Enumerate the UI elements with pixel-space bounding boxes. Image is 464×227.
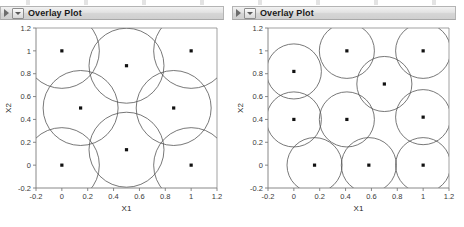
y-tick-label: 1 [27, 47, 31, 56]
x-tick-label: 0.2 [82, 192, 92, 201]
plot-canvas: -0.200.20.40.60.811.2-0.200.20.40.60.811… [232, 20, 456, 225]
y-tick-label: 0.6 [253, 92, 263, 101]
top-scan-artifact [0, 0, 464, 5]
x-tick-label: 0.4 [340, 192, 350, 201]
overlay-plot-panel-left: Overlay Plot -0.200.20.40.60.811.2-0.200… [0, 6, 224, 225]
x-tick-label: 0.6 [366, 192, 376, 201]
triangle-right-icon[interactable] [236, 9, 241, 17]
y-axis-label: X2 [4, 103, 13, 113]
x-tick-label: 0.6 [134, 192, 144, 201]
x-axis-label: X1 [354, 204, 364, 213]
y-tick-label: 0.4 [21, 115, 31, 124]
plot-svg: -0.200.20.40.60.811.2-0.200.20.40.60.811… [0, 20, 224, 225]
panel-titlebar[interactable]: Overlay Plot [232, 6, 456, 20]
x-tick-label: 1.2 [444, 192, 454, 201]
x-tick-label: 1 [421, 192, 425, 201]
y-tick-label: 0.6 [21, 92, 31, 101]
plot-canvas: -0.200.20.40.60.811.2-0.200.20.40.60.811… [0, 20, 224, 225]
x-tick-label: -0.2 [30, 192, 43, 201]
overlay-plot-panel-right: Overlay Plot -0.200.20.40.60.811.2-0.200… [232, 6, 456, 225]
dropdown-menu-icon[interactable] [244, 8, 256, 19]
x-tick-label: 0.2 [314, 192, 324, 201]
triangle-right-icon[interactable] [4, 9, 9, 17]
x-tick-label: 0.4 [108, 192, 118, 201]
y-tick-label: 0.2 [21, 138, 31, 147]
x-axis-label: X1 [122, 204, 132, 213]
x-tick-label: 0.8 [392, 192, 402, 201]
panel-titlebar[interactable]: Overlay Plot [0, 6, 224, 20]
x-tick-label: 0 [292, 192, 296, 201]
dropdown-menu-icon[interactable] [12, 8, 24, 19]
y-tick-label: 1 [259, 47, 263, 56]
x-tick-label: 0.8 [160, 192, 170, 201]
y-tick-label: 0.4 [253, 115, 263, 124]
plot-svg: -0.200.20.40.60.811.2-0.200.20.40.60.811… [232, 20, 456, 225]
y-tick-label: 0 [27, 161, 31, 170]
y-tick-label: 0 [259, 161, 263, 170]
y-axis-label: X2 [236, 103, 245, 113]
y-tick-label: -0.2 [18, 184, 31, 193]
y-tick-label: 0.2 [253, 138, 263, 147]
x-tick-label: 0 [60, 192, 64, 201]
panel-title: Overlay Plot [28, 8, 82, 18]
panel-title: Overlay Plot [260, 8, 314, 18]
y-tick-label: 0.8 [21, 69, 31, 78]
x-tick-label: -0.2 [262, 192, 275, 201]
y-tick-label: 0.8 [253, 69, 263, 78]
x-tick-label: 1.2 [212, 192, 222, 201]
y-tick-label: 1.2 [253, 24, 263, 33]
y-tick-label: 1.2 [21, 24, 31, 33]
y-tick-label: -0.2 [250, 184, 263, 193]
x-tick-label: 1 [189, 192, 193, 201]
